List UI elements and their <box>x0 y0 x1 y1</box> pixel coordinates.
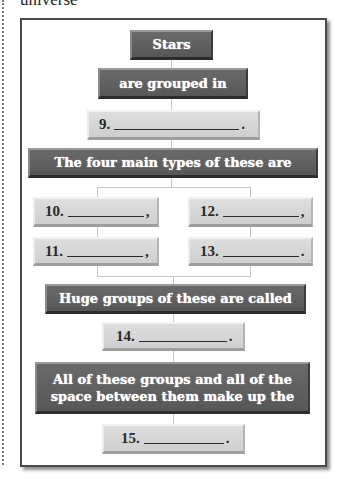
blank-9[interactable]: 9. . <box>87 110 260 140</box>
node-are-grouped-in: are grouped in <box>98 68 248 99</box>
connector-line <box>250 227 251 237</box>
answer-line[interactable] <box>223 246 299 257</box>
node-four-main-types: The four main types of these are <box>28 148 318 178</box>
blank-13[interactable]: 13. . <box>188 237 313 266</box>
node-text: Stars <box>153 36 191 53</box>
node-text: are grouped in <box>119 75 227 92</box>
answer-line[interactable] <box>139 331 227 342</box>
blank-10[interactable]: 10. , <box>33 197 159 227</box>
node-huge-groups: Huge groups of these are called <box>45 284 306 314</box>
connector-line <box>97 266 98 276</box>
blank-15[interactable]: 15. . <box>102 424 245 454</box>
blank-number: 13. <box>200 243 219 260</box>
answer-line[interactable] <box>68 206 144 217</box>
bracket-top <box>97 187 251 188</box>
blank-punct: . <box>241 116 245 133</box>
bracket-bottom <box>97 276 251 277</box>
blank-punct: . <box>229 328 233 345</box>
blank-punct: . <box>301 243 305 260</box>
blank-punct: . <box>226 430 230 447</box>
node-text: The four main types of these are <box>54 154 291 171</box>
node-text: Huge groups of these are called <box>59 290 292 307</box>
blank-14[interactable]: 14. . <box>102 322 245 351</box>
blank-number: 10. <box>45 203 64 220</box>
blank-12[interactable]: 12. , <box>188 197 313 227</box>
node-text: All of these groups and all of the space… <box>45 371 300 405</box>
answer-line[interactable] <box>144 433 224 444</box>
blank-11[interactable]: 11. , <box>33 237 159 266</box>
blank-punct: , <box>145 243 149 260</box>
blank-number: 12. <box>200 203 219 220</box>
connector-line <box>250 266 251 276</box>
connector-line <box>97 227 98 237</box>
dotted-margin-rule <box>2 0 4 465</box>
blank-number: 9. <box>99 116 110 133</box>
connector-line <box>171 178 172 187</box>
blank-punct: , <box>146 203 150 220</box>
answer-line[interactable] <box>223 206 299 217</box>
blank-punct: , <box>301 203 305 220</box>
answer-line[interactable] <box>67 246 143 257</box>
blank-number: 14. <box>116 328 135 345</box>
node-all-groups: All of these groups and all of the space… <box>35 362 310 414</box>
answer-line[interactable] <box>114 119 239 130</box>
blank-number: 11. <box>45 243 63 260</box>
node-stars: Stars <box>130 30 213 60</box>
blank-number: 15. <box>121 430 140 447</box>
heading-fragment: universe <box>20 0 78 9</box>
